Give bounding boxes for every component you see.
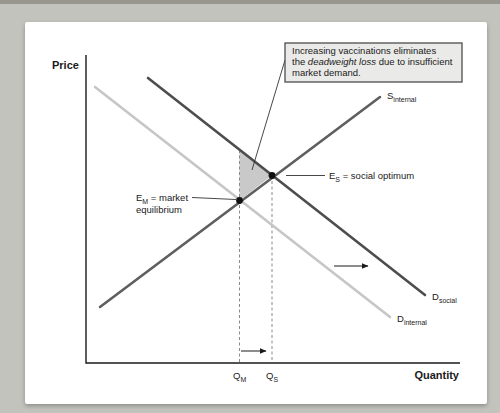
em-leader-line: [192, 198, 236, 200]
market-equilibrium-point: [236, 197, 243, 204]
annotation-line-2: the deadweight loss due to insufficient: [292, 56, 453, 67]
qm-tick-label: QM: [233, 370, 246, 383]
quantity-axis-label: Quantity: [414, 369, 459, 381]
social-optimum-point: [269, 172, 276, 179]
social-optimum-label: ES = social optimum: [329, 170, 414, 183]
demand-internal-label: Dinternal: [397, 313, 427, 326]
qs-tick-label: QS: [266, 370, 278, 383]
demand-social-curve: [148, 78, 425, 295]
price-axis-label: Price: [52, 59, 79, 71]
figure-stage: Increasing vaccinations eliminates the d…: [0, 0, 500, 413]
econ-diagram: Increasing vaccinations eliminates the d…: [0, 0, 500, 413]
supply-internal-label: Sinternal: [387, 90, 417, 103]
market-equilibrium-label: EM = market: [136, 192, 188, 205]
annotation-line-3: market demand.: [292, 67, 361, 78]
demand-social-label: Dsocial: [432, 291, 457, 304]
annotation-leader-line: [252, 60, 285, 170]
market-equilibrium-label-line2: equilibrium: [136, 204, 182, 215]
annotation-line-1: Increasing vaccinations eliminates: [292, 45, 436, 56]
